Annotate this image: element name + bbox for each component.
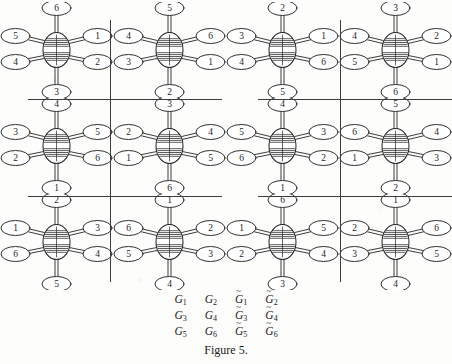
label-cell: G1 bbox=[165, 292, 195, 308]
molecule-diagram: 432165 bbox=[226, 98, 339, 194]
substituent-number: 1 bbox=[280, 183, 285, 193]
horizontal-divider bbox=[28, 196, 222, 197]
vertical-divider bbox=[340, 20, 341, 282]
molecule-diagram: 165432 bbox=[339, 194, 452, 290]
label-cell: G5 bbox=[165, 324, 195, 340]
group-symbol: ~G bbox=[235, 325, 243, 337]
substituent-number: 2 bbox=[126, 127, 131, 137]
label-cell: ~G6 bbox=[256, 324, 286, 340]
group-subscript: 5 bbox=[243, 330, 247, 339]
substituent-number: 5 bbox=[239, 127, 244, 137]
horizontal-divider bbox=[258, 99, 452, 100]
substituent-number: 4 bbox=[352, 31, 357, 41]
substituent-number: 4 bbox=[208, 127, 213, 137]
substituent-number: 2 bbox=[95, 57, 100, 67]
substituent-number: 1 bbox=[95, 31, 100, 41]
substituent-number: 6 bbox=[321, 57, 326, 67]
group-symbol: G bbox=[205, 309, 213, 321]
molecule-diagram: 234561 bbox=[0, 194, 113, 290]
substituent-number: 5 bbox=[321, 223, 326, 233]
substituent-number: 1 bbox=[126, 153, 131, 163]
substituent-number: 5 bbox=[167, 3, 172, 13]
substituent-number: 5 bbox=[434, 249, 439, 259]
substituent-number: 6 bbox=[54, 3, 59, 13]
substituent-number: 6 bbox=[95, 153, 100, 163]
horizontal-divider bbox=[258, 196, 452, 197]
tilde-accent: ~ bbox=[235, 303, 242, 312]
molecule-diagram: 216543 bbox=[226, 2, 339, 98]
label-cell: G2 bbox=[196, 292, 226, 308]
group-subscript: 2 bbox=[213, 298, 217, 307]
substituent-number: 5 bbox=[393, 99, 398, 109]
caption-block: G1G2~G1~G2G3G4~G3~G4G5G6~G5~G6 Figure 5. bbox=[0, 292, 452, 358]
substituent-number: 2 bbox=[434, 31, 439, 41]
molecule-cell-Gtilde3: 432165 bbox=[226, 98, 339, 194]
vertical-divider bbox=[110, 20, 111, 282]
substituent-number: 5 bbox=[352, 57, 357, 67]
substituent-number: 2 bbox=[321, 153, 326, 163]
substituent-number: 6 bbox=[434, 223, 439, 233]
substituent-number: 1 bbox=[54, 183, 59, 193]
substituent-number: 6 bbox=[393, 87, 398, 97]
substituent-number: 6 bbox=[126, 223, 131, 233]
group-symbol: G bbox=[205, 325, 213, 337]
group-subscript: 6 bbox=[274, 330, 278, 339]
substituent-number: 3 bbox=[321, 127, 326, 137]
substituent-number: 3 bbox=[434, 153, 439, 163]
substituent-number: 4 bbox=[393, 279, 398, 289]
molecule-grid: 6123455612342165433216544561233456124321… bbox=[0, 0, 452, 290]
figure-page: 6123455612342165433216544561233456124321… bbox=[0, 0, 452, 364]
substituent-number: 1 bbox=[434, 57, 439, 67]
label-cell: ~G5 bbox=[226, 324, 256, 340]
molecule-cell-Gtilde4: 543216 bbox=[339, 98, 452, 194]
group-subscript: 2 bbox=[274, 298, 278, 307]
substituent-number: 1 bbox=[352, 153, 357, 163]
molecule-diagram: 123456 bbox=[113, 194, 226, 290]
substituent-number: 4 bbox=[126, 31, 131, 41]
substituent-number: 5 bbox=[13, 31, 18, 41]
molecule-diagram: 543216 bbox=[339, 98, 452, 194]
group-symbol: G bbox=[174, 309, 182, 321]
molecule-diagram: 654321 bbox=[226, 194, 339, 290]
group-subscript: 6 bbox=[213, 330, 217, 339]
figure-caption: Figure 5. bbox=[0, 343, 452, 358]
molecule-cell-G4: 345612 bbox=[113, 98, 226, 194]
substituent-number: 3 bbox=[95, 223, 100, 233]
substituent-number: 6 bbox=[13, 249, 18, 259]
horizontal-divider bbox=[28, 99, 222, 100]
group-subscript: 1 bbox=[243, 298, 247, 307]
substituent-number: 4 bbox=[434, 127, 439, 137]
molecule-cell-Gtilde1: 216543 bbox=[226, 2, 339, 98]
substituent-number: 3 bbox=[167, 99, 172, 109]
substituent-number: 3 bbox=[280, 279, 285, 289]
group-subscript: 4 bbox=[213, 314, 217, 323]
substituent-number: 6 bbox=[239, 153, 244, 163]
substituent-number: 3 bbox=[239, 31, 244, 41]
molecule-diagram: 345612 bbox=[113, 98, 226, 194]
substituent-number: 4 bbox=[321, 249, 326, 259]
tilde-accent: ~ bbox=[235, 319, 242, 328]
group-symbol: G bbox=[174, 293, 182, 305]
molecule-cell-G5: 234561 bbox=[0, 194, 113, 290]
substituent-number: 2 bbox=[393, 183, 398, 193]
molecule-diagram: 561234 bbox=[113, 2, 226, 98]
group-subscript: 1 bbox=[183, 298, 187, 307]
substituent-number: 3 bbox=[13, 127, 18, 137]
label-table: G1G2~G1~G2G3G4~G3~G4G5G6~G5~G6 bbox=[165, 292, 286, 340]
substituent-number: 4 bbox=[54, 99, 59, 109]
substituent-number: 2 bbox=[208, 223, 213, 233]
substituent-number: 3 bbox=[393, 3, 398, 13]
substituent-number: 6 bbox=[352, 127, 357, 137]
substituent-number: 6 bbox=[167, 183, 172, 193]
substituent-number: 1 bbox=[239, 223, 244, 233]
substituent-number: 2 bbox=[13, 153, 18, 163]
label-cell: G3 bbox=[165, 308, 195, 324]
substituent-number: 5 bbox=[208, 153, 213, 163]
substituent-number: 5 bbox=[126, 249, 131, 259]
tilde-accent: ~ bbox=[265, 287, 272, 296]
group-symbol: ~G bbox=[265, 325, 273, 337]
substituent-number: 4 bbox=[280, 99, 285, 109]
molecule-cell-Gtilde6: 165432 bbox=[339, 194, 452, 290]
substituent-number: 4 bbox=[167, 279, 172, 289]
center-gutter bbox=[226, 20, 227, 282]
